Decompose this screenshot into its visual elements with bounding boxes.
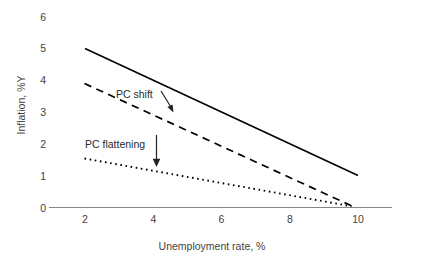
y-axis-title: Inflation, %Y bbox=[16, 35, 27, 175]
x-tick-label-8: 8 bbox=[279, 214, 301, 225]
pc-flattening-arrow-icon bbox=[153, 135, 161, 167]
phillips-curve-chart: 6 5 4 3 2 1 0 2 4 6 8 10 Unemployment ra… bbox=[0, 0, 424, 261]
y-tick-label-2: 2 bbox=[30, 139, 46, 150]
y-axis-title-container: Inflation, %Y bbox=[16, 35, 32, 175]
y-tick-label-5: 5 bbox=[30, 43, 46, 54]
annotation-label-pc-flattening: PC flattening bbox=[85, 139, 145, 150]
x-axis-title: Unemployment rate, % bbox=[0, 241, 424, 252]
y-tick-label-1: 1 bbox=[30, 171, 46, 182]
x-tick-label-4: 4 bbox=[142, 214, 164, 225]
annotation-label-pc-shift: PC shift bbox=[116, 89, 153, 100]
pc-shift-arrow-icon bbox=[161, 91, 174, 113]
y-tick-label-6: 6 bbox=[30, 12, 46, 23]
x-tick-label-2: 2 bbox=[74, 214, 96, 225]
y-tick-label-4: 4 bbox=[30, 75, 46, 86]
y-tick-label-0: 0 bbox=[30, 203, 46, 214]
series-line-flattened-pc bbox=[85, 159, 352, 207]
y-tick-label-3: 3 bbox=[30, 107, 46, 118]
series-line-original-pc bbox=[85, 49, 358, 176]
x-tick-label-6: 6 bbox=[211, 214, 233, 225]
x-tick-label-10: 10 bbox=[347, 214, 369, 225]
